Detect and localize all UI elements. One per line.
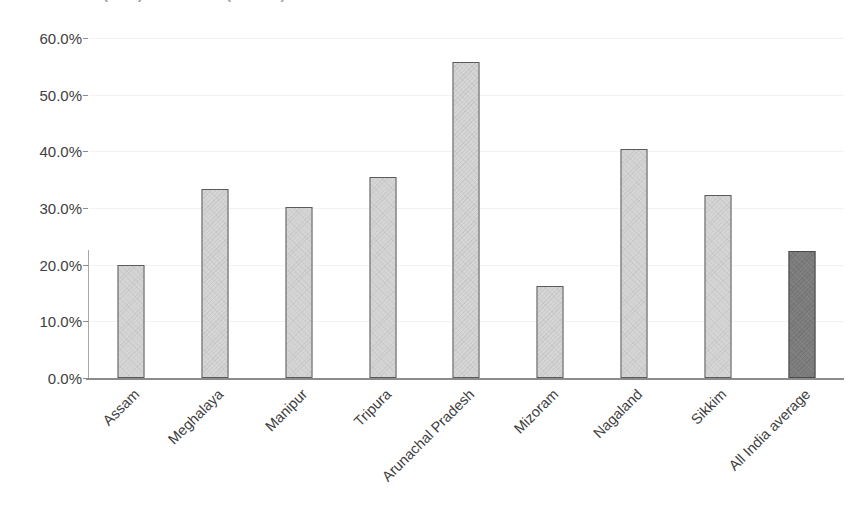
x-label-slot: Manipur (257, 382, 341, 527)
y-tick-label: 30.0% (8, 200, 82, 217)
y-tick-mark (83, 95, 88, 96)
x-tick-label: Meghalaya (165, 386, 226, 447)
source-note-clipped: Source: ISS (2020) and NFHS-5 (2019-21) (24, 0, 544, 3)
bar-slot (508, 38, 592, 378)
y-tick-label: 20.0% (8, 256, 82, 273)
x-label-slot: Meghalaya (173, 382, 257, 527)
bar[interactable] (705, 195, 732, 378)
x-label-slot: Nagaland (592, 382, 676, 527)
bar-slot (425, 38, 509, 378)
plot-area (89, 38, 844, 378)
y-tick-label: 0.0% (8, 370, 82, 387)
x-tick-label: Tripura (350, 386, 393, 429)
x-tick-label: Nagaland (590, 386, 645, 441)
bar[interactable] (453, 62, 480, 378)
bar[interactable] (789, 251, 816, 378)
x-tick-label: Manipur (262, 386, 310, 434)
x-tick-label: Sikkim (688, 386, 730, 428)
bar-slot (173, 38, 257, 378)
bar-slot (89, 38, 173, 378)
y-tick-mark (83, 38, 88, 39)
bar-slot (257, 38, 341, 378)
x-tick-label: Mizoram (511, 386, 562, 437)
bar-chart-figure: Source: ISS (2020) and NFHS-5 (2019-21) … (0, 0, 865, 531)
x-label-slot: Arunachal Pradesh (425, 382, 509, 527)
x-label-slot: Assam (89, 382, 173, 527)
y-axis: 60.0%50.0%40.0%30.0%20.0%10.0%0.0% (0, 38, 82, 378)
bar[interactable] (285, 207, 312, 378)
bar[interactable] (201, 189, 228, 378)
bar-slot (341, 38, 425, 378)
y-tick-mark (83, 151, 88, 152)
x-axis-labels: AssamMeghalayaManipurTripuraArunachal Pr… (89, 382, 844, 527)
y-tick-mark (83, 208, 88, 209)
y-tick-label: 10.0% (8, 313, 82, 330)
y-tick-label: 40.0% (8, 143, 82, 160)
bar-slot (592, 38, 676, 378)
y-tick-label: 60.0% (8, 30, 82, 47)
bar[interactable] (117, 265, 144, 378)
bar[interactable] (537, 286, 564, 378)
y-tick-label: 50.0% (8, 86, 82, 103)
x-axis-baseline (86, 378, 844, 380)
bar[interactable] (621, 149, 648, 379)
x-label-slot: Mizoram (508, 382, 592, 527)
bar[interactable] (369, 177, 396, 378)
bar-slot (676, 38, 760, 378)
x-tick-label: Assam (100, 386, 143, 429)
source-note-text: Source: ISS (2020) and NFHS-5 (2019-21) (24, 0, 544, 3)
x-label-slot: All India average (760, 382, 844, 527)
bar-slot (760, 38, 844, 378)
